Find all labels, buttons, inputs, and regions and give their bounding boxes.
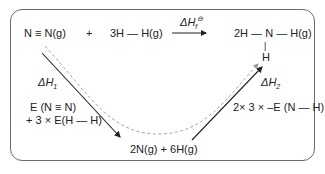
energy-h-h: + 3 × E(H — H) [26,114,102,126]
enthalpy-formation-label: ΔHf⊖ [180,16,203,28]
product-h: H [262,51,270,63]
reactant-h2: 3H — H(g) [110,27,163,39]
reactant-n2: N ≡ N(g) [24,27,66,39]
energy-n-triple: E (N ≡ N) [30,101,76,113]
delta-h2-label: ΔH2 [261,76,280,88]
plus-sign: + [86,27,92,39]
energy-n-h: 2× 3 × –E (N — H) [233,101,324,113]
intermediate-atoms: 2N(g) + 6H(g) [130,143,198,155]
delta-h1-label: ΔH1 [38,76,57,88]
product-nh3: 2H — N — H(g) [234,27,312,39]
